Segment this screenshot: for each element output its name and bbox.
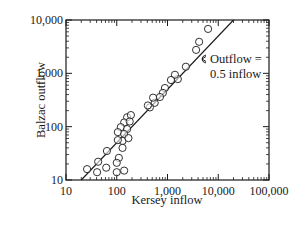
y-tick-label: 10,000 [30,13,63,27]
data-point [113,159,120,166]
x-tick-label: 10,000 [202,184,235,198]
plot-frame [66,20,269,180]
data-point [113,169,120,176]
annotation: Outflow = 0.5 inflow [202,52,262,81]
data-point [121,167,128,174]
data-point [95,158,102,165]
data-points [83,25,211,175]
data-point [93,169,100,176]
annotation-arrow-icon [202,55,206,63]
annotation-line-1: Outflow = [210,52,262,66]
data-point [103,164,110,171]
data-point [149,94,156,101]
scatter-chart: 101001,00010,000100,000 101001,00010,000… [0,0,305,225]
major-ticks [66,20,269,180]
y-tick-label: 10 [51,173,63,187]
data-point [167,76,174,83]
data-point [127,111,134,118]
data-point [83,166,90,173]
x-tick-label: 100,000 [250,184,289,198]
data-point [144,102,151,109]
minor-ticks [66,20,269,180]
x-axis-title: Kersey inflow [131,193,202,207]
data-point [196,38,203,45]
data-point [119,144,126,151]
data-point [204,25,211,32]
annotation-line-2: 0.5 inflow [210,67,261,81]
data-point [126,118,133,125]
data-point [125,135,132,142]
data-point [114,136,121,143]
data-point [182,63,189,70]
x-tick-label: 100 [108,184,126,198]
y-axis-title: Balzac outflow [34,62,48,138]
data-point [192,46,199,53]
data-point [103,147,110,154]
data-point [156,93,163,100]
